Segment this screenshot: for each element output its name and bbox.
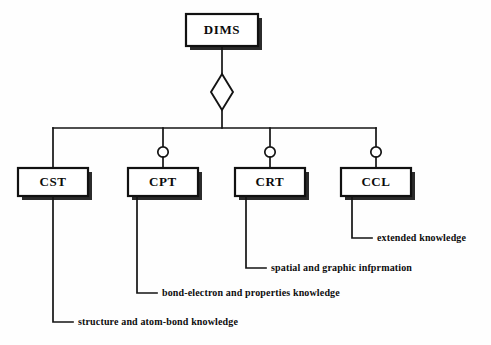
circle-marker-crt-icon [265,147,275,157]
cst-box-label: CST [18,174,88,190]
leader-line-crt [246,196,266,268]
leader-line-ccl [352,196,372,238]
aggregation-diamond-icon [211,74,233,110]
circle-marker-cpt-icon [158,147,168,157]
cpt-box-label: CPT [128,174,198,190]
diagram-canvas: DIMS CST CPT CRT CCL structure and atom-… [0,0,491,345]
dims-box-label: DIMS [186,22,258,38]
leader-line-cst [53,196,73,322]
annotation-ccl: extended knowledge [377,232,466,243]
circle-marker-ccl-icon [371,147,381,157]
annotation-cst: structure and atom-bond knowledge [78,316,238,327]
annotation-cpt: bond-electron and properties knowledge [162,287,340,298]
ccl-box-label: CCL [341,174,411,190]
leader-line-cpt [137,196,157,293]
annotation-crt: spatial and graphic infprmation [271,262,412,273]
crt-box-label: CRT [235,174,305,190]
